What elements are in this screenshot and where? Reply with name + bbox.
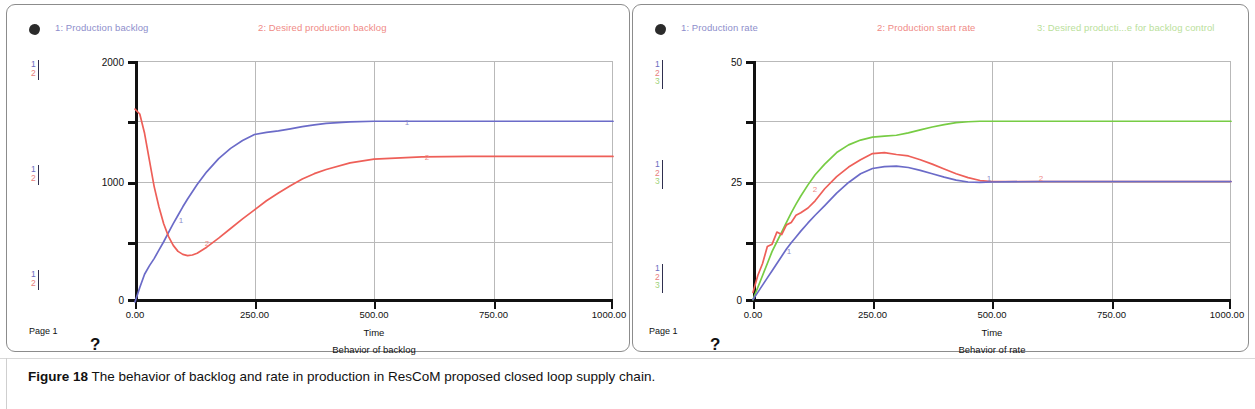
legend-item-2: 2: Production start rate [877,22,976,33]
curve-tag-1-right: 1 [987,174,991,183]
series-line-1 [753,166,1231,300]
scale-marker-top: 1 2 [31,60,39,80]
curve-tag-2-right: 2 [425,153,429,162]
left-margin-rule [6,358,7,409]
series-line-2 [753,153,1231,293]
x-tick-label-500: 500.00 [977,309,1006,320]
series-lines-backlog [135,61,613,302]
x-tick-label-750: 750.00 [479,309,508,320]
scale-marker-top: 1 2 3 [655,60,663,89]
x-axis-title: Time [364,327,385,338]
figure-container: 1: Production backlog 2: Desired product… [0,0,1255,409]
series-line-3 [753,121,1231,299]
x-tick-label-250: 250.00 [240,309,269,320]
chart-caption: Behavior of backlog [332,344,415,355]
curve-tag-1: 1 [179,216,183,225]
series-line-1 [135,121,613,302]
scale-marker-middle: 1 2 3 [655,160,663,189]
chart-panels: 1: Production backlog 2: Desired product… [6,4,1249,352]
y-tick-label-50: 50 [731,57,742,68]
scale-marker-middle: 1 2 [31,165,39,185]
y-tick-label-25: 25 [731,176,742,187]
x-tick-label-750: 750.00 [1097,309,1126,320]
page-label[interactable]: Page 1 [29,326,58,336]
x-tick-label-0: 0.00 [126,309,145,320]
x-tick-label-250: 250.00 [858,309,887,320]
legend-item-1: 1: Production rate [681,22,758,33]
y-tick-label-1000: 1000 [102,176,124,187]
x-tick-label-1000: 1000.00 [592,309,626,320]
curve-tag-2-inner: 2 [205,239,209,248]
series-marker-icon [29,24,40,35]
legend-item-3: 3: Desired producti...e for backlog cont… [1037,22,1215,33]
figure-caption: Figure 18 The behavior of backlog and ra… [28,368,1241,385]
x-tick-label-1000: 1000.00 [1210,309,1244,320]
series-lines-rate [753,61,1231,302]
series-line-2 [135,109,613,255]
y-tick-label-0: 0 [736,295,742,306]
curve-tag-1-right: 1 [405,118,409,127]
scale-marker-bottom: 1 2 3 [655,264,663,293]
curve-tag-2-inner: 2 [813,185,817,194]
legend-backlog: 1: Production backlog 2: Desired product… [7,22,629,38]
plot-area-backlog: 2000 1000 0 0.00 250.00 500.00 750.00 10… [135,61,613,302]
help-question-icon[interactable]: ? [710,335,720,355]
x-axis-title: Time [982,327,1003,338]
x-tick-label-0: 0.00 [744,309,763,320]
panel-rate: 1: Production rate 2: Production start r… [632,4,1249,352]
help-question-icon[interactable]: ? [90,335,100,355]
panel-backlog: 1: Production backlog 2: Desired product… [6,4,630,352]
plot-area-rate: 50 25 0 0.00 250.00 500.00 750.00 1000.0… [753,61,1231,302]
x-tick-label-500: 500.00 [359,309,388,320]
figure-number: Figure 18 [28,369,88,384]
legend-item-1: 1: Production backlog [55,22,148,33]
y-tick-label-2000: 2000 [102,57,124,68]
legend-rate: 1: Production rate 2: Production start r… [633,22,1248,38]
figure-caption-text: The behavior of backlog and rate in prod… [92,369,656,384]
page-label[interactable]: Page 1 [649,326,678,336]
legend-item-2: 2: Desired production backlog [258,22,387,33]
scale-marker-bottom: 1 2 [31,270,39,290]
y-tick-label-0: 0 [118,295,124,306]
caption-divider [0,358,1255,359]
chart-caption: Behavior of rate [958,344,1025,355]
curve-tag-2-right: 2 [1039,174,1043,183]
series-marker-icon [655,24,666,35]
curve-tag-1-inner: 1 [787,247,791,256]
